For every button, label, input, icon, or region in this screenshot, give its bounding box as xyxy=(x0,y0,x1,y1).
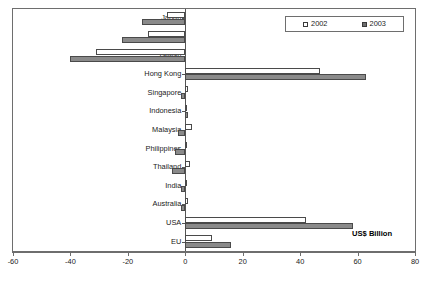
bar-group: Philippines xyxy=(13,139,415,158)
x-tick xyxy=(128,252,129,256)
x-tick-label: 0 xyxy=(183,258,187,265)
x-tick xyxy=(358,252,359,256)
plot-surface: JapanKoreaTaiwanHong KongSingaporeIndone… xyxy=(13,9,415,251)
bar-2003 xyxy=(181,205,185,211)
legend-label-2002: 2002 xyxy=(311,20,327,27)
bar-2002 xyxy=(185,86,187,92)
legend-item-2002: 2002 xyxy=(303,20,327,27)
bar-2003 xyxy=(185,112,188,118)
category-label: EU xyxy=(171,238,181,245)
bar-2002 xyxy=(185,217,306,223)
bar-2003 xyxy=(175,149,185,155)
x-tick-label: -60 xyxy=(8,258,19,265)
bar-2002 xyxy=(185,161,189,167)
filled-square-icon xyxy=(362,22,367,27)
x-tick xyxy=(70,252,71,256)
bar-group: Malaysia xyxy=(13,121,415,140)
bar-2002 xyxy=(185,142,187,148)
units-label: US$ Billion xyxy=(352,230,392,238)
bar-2002 xyxy=(185,68,320,74)
x-tick-label: 20 xyxy=(239,258,247,265)
x-tick xyxy=(185,252,186,256)
x-axis xyxy=(12,252,416,253)
bar-group: India xyxy=(13,177,415,196)
bar-2002 xyxy=(185,235,212,241)
bar-2003 xyxy=(185,74,366,80)
bar-2002 xyxy=(148,31,185,37)
category-label: USA xyxy=(166,219,181,226)
bar-2002 xyxy=(185,198,188,204)
bar-2003 xyxy=(142,19,185,25)
x-tick xyxy=(13,252,14,256)
bar-2002 xyxy=(167,12,186,18)
x-tick-label: -40 xyxy=(65,258,76,265)
x-tick xyxy=(243,252,244,256)
bar-2003 xyxy=(181,186,185,192)
bar-group: Indonesia xyxy=(13,102,415,121)
bar-group: Singapore xyxy=(13,83,415,102)
x-tick-label: 80 xyxy=(411,258,419,265)
bar-2003 xyxy=(185,223,353,229)
x-tick xyxy=(300,252,301,256)
x-tick xyxy=(415,252,416,256)
bar-2003 xyxy=(185,242,231,248)
category-label: Malaysia xyxy=(152,126,181,133)
category-label: Indonesia xyxy=(149,108,181,115)
category-label: Hong Kong xyxy=(144,70,181,77)
category-label: Singapore xyxy=(148,89,182,96)
bar-group: Thailand xyxy=(13,158,415,177)
x-tick-label: -20 xyxy=(123,258,134,265)
bar-2002 xyxy=(185,180,187,186)
bar-2003 xyxy=(172,168,185,174)
bar-2003 xyxy=(181,93,185,99)
bar-2003 xyxy=(122,37,185,43)
x-tick-label: 40 xyxy=(296,258,304,265)
bar-2003 xyxy=(70,56,185,62)
bar-group: Australia xyxy=(13,195,415,214)
legend-label-2003: 2003 xyxy=(370,20,386,27)
category-label: Australia xyxy=(153,201,182,208)
bar-chart: JapanKoreaTaiwanHong KongSingaporeIndone… xyxy=(0,0,428,281)
bar-2002 xyxy=(185,105,187,111)
bar-2003 xyxy=(178,130,185,136)
legend-item-2003: 2003 xyxy=(362,20,386,27)
x-tick-label: 60 xyxy=(353,258,361,265)
hollow-square-icon xyxy=(303,22,308,27)
bar-group: Hong Kong xyxy=(13,65,415,84)
bar-2002 xyxy=(96,49,185,55)
category-label: India xyxy=(165,182,181,189)
bar-2002 xyxy=(185,124,192,130)
plot-frame: JapanKoreaTaiwanHong KongSingaporeIndone… xyxy=(12,8,416,252)
bar-group: Taiwan xyxy=(13,46,415,65)
chart-legend: 2002 2003 xyxy=(285,16,404,32)
